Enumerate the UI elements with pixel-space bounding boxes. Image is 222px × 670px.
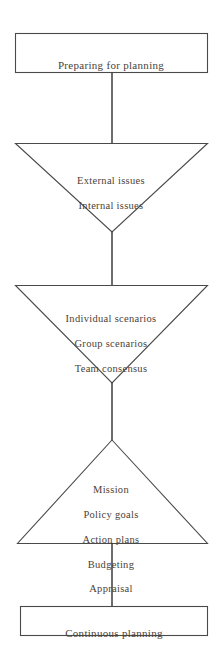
flowchart-diagram: Preparing for planning External issues I…: [0, 0, 222, 670]
flowchart-canvas: [0, 0, 222, 670]
node-preparing-shape: [16, 34, 208, 73]
node-scenarios-shape: [16, 286, 208, 384]
node-continuous-shape: [21, 607, 208, 636]
node-mission-shape: [18, 440, 208, 544]
node-issues-shape: [16, 144, 208, 233]
